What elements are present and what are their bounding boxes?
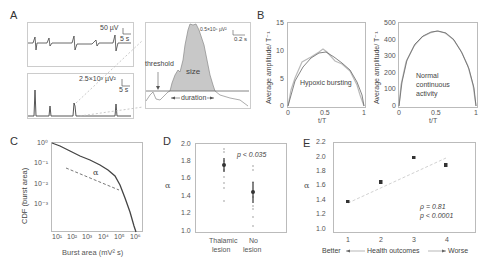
panel-e-outcome-mid: Health outcomes	[367, 247, 420, 254]
panel-e-outcome-arrows	[0, 0, 481, 265]
panel-e-outcome-worse: Worse	[448, 247, 468, 254]
